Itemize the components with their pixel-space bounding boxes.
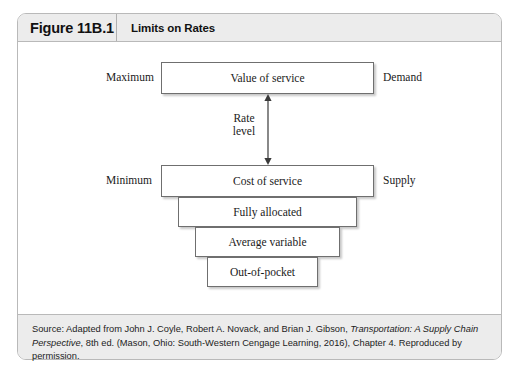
box-value-of-service: Value of service xyxy=(161,62,374,94)
figure-source-note: Source: Adapted from John J. Coyle, Robe… xyxy=(18,314,501,359)
rate-level-line1: Rate xyxy=(233,112,254,124)
label-demand: Demand xyxy=(383,71,422,83)
figure-title: Limits on Rates xyxy=(117,22,215,34)
figure-number: Figure 11B.1 xyxy=(18,20,116,36)
label-maximum: Maximum xyxy=(106,71,154,83)
figure-header: Figure 11B.1 Limits on Rates xyxy=(18,14,501,42)
rate-level-line2: level xyxy=(233,125,255,137)
label-minimum: Minimum xyxy=(106,174,152,186)
figure-frame: Figure 11B.1 Limits on Rates Maximum Dem… xyxy=(17,13,502,360)
source-suffix: , 8th ed. (Mason, Ohio: South-Western Ce… xyxy=(32,338,462,362)
box-fully-allocated: Fully allocated xyxy=(178,197,357,227)
rate-level-label: Rate level xyxy=(223,112,265,138)
source-prefix: Source: Adapted from John J. Coyle, Robe… xyxy=(32,324,350,334)
box-average-variable: Average variable xyxy=(195,227,340,257)
box-cost-of-service: Cost of service xyxy=(161,165,374,197)
rate-limits-diagram: Maximum Demand Minimum Supply Value of s… xyxy=(18,42,501,315)
box-out-of-pocket: Out-of-pocket xyxy=(207,257,318,287)
label-supply: Supply xyxy=(383,174,416,186)
